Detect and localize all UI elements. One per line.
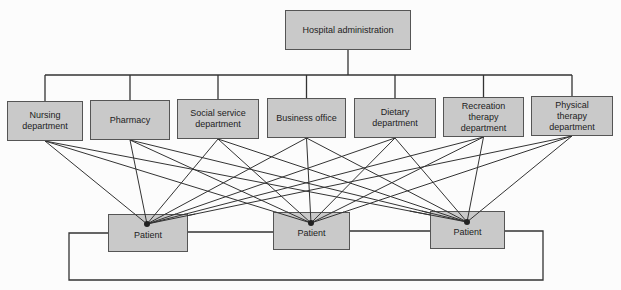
patient-connection-dots	[0, 0, 621, 290]
